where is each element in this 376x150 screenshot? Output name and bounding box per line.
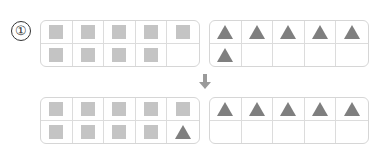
triangle-icon (249, 25, 265, 39)
frame-cell (273, 44, 305, 67)
square-icon (49, 25, 63, 39)
frame-cell (210, 21, 242, 44)
frame-cell (136, 121, 168, 144)
frame-cell (305, 21, 337, 44)
square-icon (144, 102, 158, 116)
frame-cell (73, 98, 105, 121)
frame-cell (336, 21, 368, 44)
triangle-icon (217, 25, 233, 39)
triangle-icon (217, 102, 233, 116)
square-icon (144, 25, 158, 39)
triangle-icon (312, 25, 328, 39)
square-icon (112, 102, 126, 116)
frame-cell (104, 98, 136, 121)
frame-cell (336, 121, 368, 144)
frame-cell (104, 44, 136, 67)
frame-cell (73, 121, 105, 144)
frame-cell (41, 98, 73, 121)
frame-cell (273, 121, 305, 144)
problem-number-label: ① (11, 21, 31, 41)
frame-cell (167, 98, 199, 121)
frame-cell (136, 44, 168, 67)
frame-cell (41, 121, 73, 144)
square-icon (49, 102, 63, 116)
square-icon (144, 125, 158, 139)
ten-frame-before-right (209, 20, 369, 67)
frame-cell (167, 44, 199, 67)
frame-cell (167, 21, 199, 44)
square-icon (49, 125, 63, 139)
square-icon (81, 102, 95, 116)
frame-cell (273, 21, 305, 44)
square-icon (176, 102, 190, 116)
frame-cell (305, 121, 337, 144)
frame-cell (273, 98, 305, 121)
frame-cell (210, 44, 242, 67)
square-icon (144, 48, 158, 62)
frame-cell (242, 121, 274, 144)
triangle-icon (249, 102, 265, 116)
triangle-icon (175, 125, 191, 139)
frame-cell (136, 21, 168, 44)
triangle-icon (344, 25, 360, 39)
square-icon (81, 48, 95, 62)
ten-frame-before-left (40, 20, 200, 67)
frame-cell (336, 98, 368, 121)
triangle-icon (217, 48, 233, 62)
triangle-icon (312, 102, 328, 116)
frame-cell (73, 44, 105, 67)
ten-frame-after-left (40, 97, 200, 144)
square-icon (112, 125, 126, 139)
frame-cell (136, 98, 168, 121)
square-icon (81, 25, 95, 39)
square-icon (49, 48, 63, 62)
ten-frame-after-right (209, 97, 369, 144)
frame-cell (336, 44, 368, 67)
frame-cell (73, 21, 105, 44)
frame-cell (167, 121, 199, 144)
square-icon (81, 125, 95, 139)
frame-cell (104, 21, 136, 44)
square-icon (112, 48, 126, 62)
frame-cell (210, 121, 242, 144)
down-arrow-icon (199, 74, 211, 90)
frame-cell (104, 121, 136, 144)
square-icon (176, 25, 190, 39)
frame-cell (305, 44, 337, 67)
frame-cell (242, 44, 274, 67)
triangle-icon (344, 102, 360, 116)
frame-cell (305, 98, 337, 121)
frame-cell (210, 98, 242, 121)
frame-cell (242, 21, 274, 44)
frame-cell (41, 44, 73, 67)
square-icon (112, 25, 126, 39)
triangle-icon (280, 25, 296, 39)
frame-cell (242, 98, 274, 121)
triangle-icon (280, 102, 296, 116)
frame-cell (41, 21, 73, 44)
